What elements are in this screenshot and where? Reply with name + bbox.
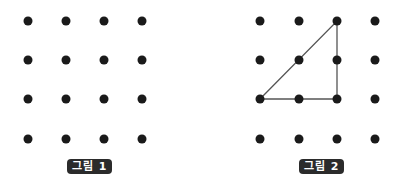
figure-1-grid: [24, 17, 147, 144]
figure-2-label: 그림 2: [299, 159, 344, 174]
figure-1-label: 그림 1: [67, 159, 112, 174]
figure-2-grid: [256, 17, 380, 144]
